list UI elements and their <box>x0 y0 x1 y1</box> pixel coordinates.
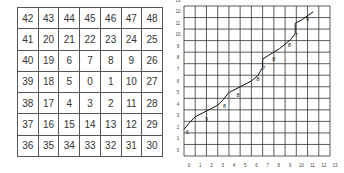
x-tick-label: 11 <box>310 163 315 168</box>
x-tick-label: 9 <box>289 163 292 168</box>
grid-row: 38174321128 <box>18 93 163 114</box>
grid-cell: 42 <box>18 8 39 29</box>
grid-cell: 47 <box>121 8 142 29</box>
grid-row: 36353433323130 <box>18 135 163 156</box>
grid-cell: 36 <box>18 135 39 156</box>
grid-cell: 26 <box>142 50 163 71</box>
grid-cell: 23 <box>100 29 121 50</box>
number-spiral-grid: 4243444546474841202122232425401967892639… <box>17 7 163 157</box>
y-tick-label: 9 <box>177 44 180 49</box>
grid-cell: 7 <box>80 50 101 71</box>
grid-cell: 6 <box>59 50 80 71</box>
grid-cell: 32 <box>100 135 121 156</box>
grid-cell: 21 <box>59 29 80 50</box>
path-point-label: 7 <box>295 32 298 38</box>
grid-cell: 2 <box>100 93 121 114</box>
grid-cell: 0 <box>80 71 101 92</box>
grid-cell: 15 <box>59 114 80 135</box>
y-tick-label: 5 <box>177 90 180 95</box>
grid-cell: 38 <box>18 93 39 114</box>
path-point-label: 9 <box>205 116 208 122</box>
path-point-label: 8 <box>236 92 239 98</box>
path-point-label: 7 <box>262 65 265 71</box>
grid-cell: 1 <box>100 71 121 92</box>
y-tick-label: 11 <box>176 21 181 26</box>
grid-row: 42434445464748 <box>18 8 163 29</box>
path-point-label: 9 <box>306 16 309 22</box>
grid-cell: 16 <box>38 114 59 135</box>
grid-cell: 46 <box>100 8 121 29</box>
grid-cell: 30 <box>142 135 163 156</box>
y-tick-label: 13 <box>175 0 181 3</box>
path-point-label: 8 <box>288 42 291 48</box>
grid-cell: 39 <box>18 71 39 92</box>
y-tick-label: 10 <box>175 32 181 37</box>
x-tick-label: 5 <box>244 163 247 168</box>
grid-cell: 18 <box>38 71 59 92</box>
grid-cell: 44 <box>59 8 80 29</box>
y-tick-label: 6 <box>177 79 180 84</box>
grid-cell: 40 <box>18 50 39 71</box>
grid-cell: 43 <box>38 8 59 29</box>
grid-cell: 9 <box>121 50 142 71</box>
grid-row: 4019678926 <box>18 50 163 71</box>
grid-cell: 34 <box>59 135 80 156</box>
path-point-label: 6 <box>186 129 189 135</box>
grid-cell: 12 <box>121 114 142 135</box>
grid-cell: 31 <box>121 135 142 156</box>
y-tick-label: 8 <box>177 55 180 60</box>
y-tick-label: 2 <box>177 125 180 130</box>
grid-cell: 20 <box>38 29 59 50</box>
x-tick-label: 3 <box>221 163 224 168</box>
grid-cell: 27 <box>142 71 163 92</box>
grid-cell: 5 <box>59 71 80 92</box>
grid-cell: 41 <box>18 29 39 50</box>
y-tick-label: 3 <box>177 113 180 118</box>
path-point-label: 8 <box>223 103 226 109</box>
grid-cell: 10 <box>121 71 142 92</box>
grid-cell: 17 <box>38 93 59 114</box>
grid-cell: 14 <box>80 114 101 135</box>
grid-cell: 19 <box>38 50 59 71</box>
path-grid-plot: 0123456789101112130123456789101112136988… <box>172 0 344 173</box>
grid-cell: 45 <box>80 8 101 29</box>
grid-cell: 24 <box>121 29 142 50</box>
y-tick-label: 4 <box>177 102 180 107</box>
y-tick-label: 0 <box>177 148 180 153</box>
y-tick-label: 12 <box>175 9 181 14</box>
x-tick-label: 7 <box>266 163 269 168</box>
x-tick-label: 12 <box>321 163 327 168</box>
grid-cell: 11 <box>121 93 142 114</box>
x-tick-label: 4 <box>233 163 236 168</box>
grid-path-chart: 0123456789101112130123456789101112136988… <box>172 0 344 173</box>
grid-cell: 22 <box>80 29 101 50</box>
path-point-label: 8 <box>272 56 275 62</box>
x-tick-label: 0 <box>188 163 191 168</box>
grid-cell: 35 <box>38 135 59 156</box>
x-tick-label: 13 <box>332 163 338 168</box>
grid-cell: 33 <box>80 135 101 156</box>
grid-cell: 3 <box>80 93 101 114</box>
grid-cell: 48 <box>142 8 163 29</box>
grid-row: 37161514131229 <box>18 114 163 135</box>
path-point-label: 8 <box>257 76 260 82</box>
x-tick-label: 10 <box>299 163 305 168</box>
grid-cell: 8 <box>100 50 121 71</box>
y-tick-label: 7 <box>177 67 180 72</box>
grid-cell: 25 <box>142 29 163 50</box>
x-tick-label: 2 <box>210 163 213 168</box>
x-tick-label: 1 <box>199 163 202 168</box>
x-tick-label: 8 <box>278 163 281 168</box>
grid-cell: 13 <box>100 114 121 135</box>
grid-cell: 37 <box>18 114 39 135</box>
grid-cell: 29 <box>142 114 163 135</box>
grid-row: 39185011027 <box>18 71 163 92</box>
grid-cell: 4 <box>59 93 80 114</box>
y-tick-label: 1 <box>177 136 180 141</box>
grid-row: 41202122232425 <box>18 29 163 50</box>
x-tick-label: 6 <box>255 163 258 168</box>
grid-cell: 28 <box>142 93 163 114</box>
